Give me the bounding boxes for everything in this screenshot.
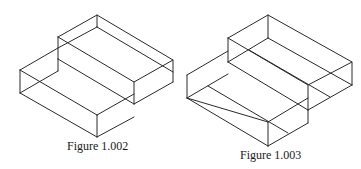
figures-canvas (0, 0, 361, 169)
figure-1-002-drawing (20, 15, 173, 137)
figure-1-003-drawing (187, 15, 352, 146)
figure-1-003-caption: Figure 1.003 (240, 148, 301, 163)
figure-1-002-caption: Figure 1.002 (67, 139, 128, 154)
